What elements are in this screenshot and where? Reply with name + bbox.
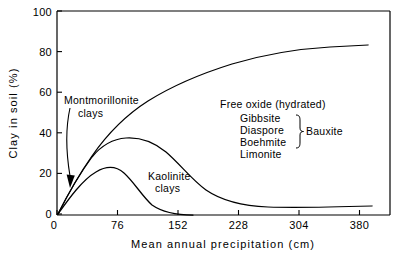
legend-item-diaspore: Diaspore xyxy=(240,124,284,136)
x-tick-label-0: 0 xyxy=(51,219,57,231)
kaolinite-label-line1: Kaolinite xyxy=(148,170,191,182)
x-tick-label-152: 152 xyxy=(168,219,187,231)
bauxite-brace-icon xyxy=(296,115,304,148)
kaolinite-annotation: Kaolinite clays xyxy=(148,170,191,194)
x-axis-tick-labels: 0 76 152 228 304 380 xyxy=(51,219,369,231)
y-tick-label-80: 80 xyxy=(39,46,52,58)
y-tick-label-100: 100 xyxy=(33,6,52,18)
montmorillonite-arrow-line xyxy=(67,108,70,176)
y-axis-title: Clay in soil (%) xyxy=(7,68,19,159)
plot-frame xyxy=(57,11,390,215)
y-axis-ticks xyxy=(57,11,62,214)
x-tick-label-228: 228 xyxy=(229,219,248,231)
legend-brace-label: Bauxite xyxy=(306,125,343,137)
legend-item-boehmite: Boehmite xyxy=(240,136,286,148)
free-oxide-legend-block: Free oxide (hydrated) Gibbsite Diaspore … xyxy=(220,98,343,160)
y-tick-label-60: 60 xyxy=(39,86,52,98)
montmorillonite-annotation: Montmorillonite clays xyxy=(64,94,139,188)
legend-heading: Free oxide (hydrated) xyxy=(220,98,326,110)
legend-item-gibbsite: Gibbsite xyxy=(240,112,281,124)
legend-item-limonite: Limonite xyxy=(240,148,282,160)
montmorillonite-label-line2: clays xyxy=(78,107,103,119)
clay-in-soil-vs-precipitation-chart: 0 20 40 60 80 100 0 76 152 228 304 380 M… xyxy=(0,0,397,258)
montmorillonite-label-line1: Montmorillonite xyxy=(64,94,139,106)
y-tick-label-40: 40 xyxy=(39,127,52,139)
x-axis-ticks xyxy=(57,210,360,215)
chart-figure: 0 20 40 60 80 100 0 76 152 228 304 380 M… xyxy=(0,0,397,258)
kaolinite-label-line2: clays xyxy=(155,182,180,194)
curve-kaolinite-clays xyxy=(58,138,372,214)
x-axis-title: Mean annual precipitation (cm) xyxy=(131,238,315,250)
x-tick-label-76: 76 xyxy=(111,219,124,231)
y-axis-tick-labels: 0 20 40 60 80 100 xyxy=(33,6,52,221)
x-tick-label-380: 380 xyxy=(350,219,369,231)
x-tick-label-304: 304 xyxy=(289,219,308,231)
y-tick-label-20: 20 xyxy=(39,167,52,179)
